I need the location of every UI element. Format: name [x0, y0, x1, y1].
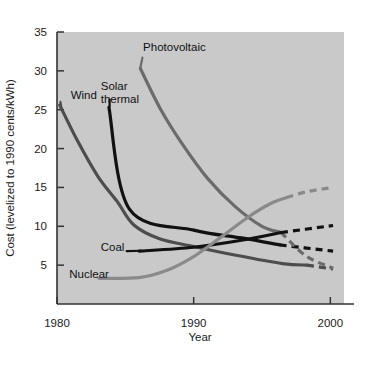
y-axis-title: Cost (levelized to 1990 cents/kWh): [4, 79, 16, 257]
series-label-photovoltaic: Photovoltaic: [143, 41, 206, 53]
y-tick-label: 15: [34, 181, 47, 193]
cost-trends-chart: 5101520253035198019902000 WindSolartherm…: [0, 0, 383, 372]
series-label-nuclear: Nuclear: [69, 268, 109, 280]
y-tick-label: 10: [34, 220, 47, 232]
series-label-wind: Wind: [71, 89, 97, 101]
y-tick-label: 30: [34, 65, 47, 77]
x-tick-label: 1990: [181, 317, 207, 329]
x-axis-title: Year: [188, 331, 211, 343]
y-tick-label: 35: [34, 26, 47, 38]
x-tick-label: 1980: [44, 317, 70, 329]
y-tick-label: 20: [34, 143, 47, 155]
y-tick-label: 25: [34, 104, 47, 116]
x-tick-label: 2000: [318, 317, 344, 329]
series-label-coal: Coal: [101, 241, 125, 253]
y-tick-label: 5: [41, 259, 47, 271]
chart-canvas: 5101520253035198019902000 WindSolartherm…: [0, 0, 383, 372]
wind-leader: [60, 102, 61, 106]
